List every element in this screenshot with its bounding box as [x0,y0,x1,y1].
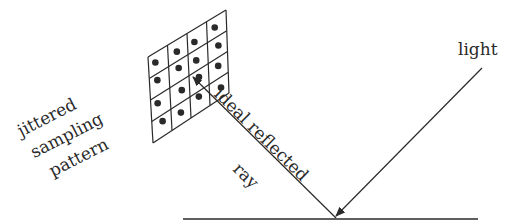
sample-point [196,93,203,100]
sample-point [178,109,185,116]
sample-point [211,24,218,31]
sample-point [159,118,166,125]
sample-point [196,74,203,81]
sample-point [154,100,161,107]
grid-line-horizontal [149,31,227,79]
reflected-ray-label-line1: ideal reflected [210,84,313,185]
reflection-diagram: light ideal reflected ray jittered sampl… [0,0,527,224]
sample-point [178,87,185,94]
sample-point [174,48,181,55]
sample-point [193,57,200,64]
light-label: light [458,39,498,59]
light-ray-arrow [336,68,482,216]
sample-point [215,63,222,70]
sample-point [191,39,198,46]
sampling-grid [148,10,229,143]
sample-point [215,42,222,49]
sample-point [152,59,159,66]
sample-point [175,65,182,72]
reflected-ray-label-line2: ray [229,159,263,193]
sample-point [154,77,161,84]
grid-line-horizontal [148,10,226,57]
